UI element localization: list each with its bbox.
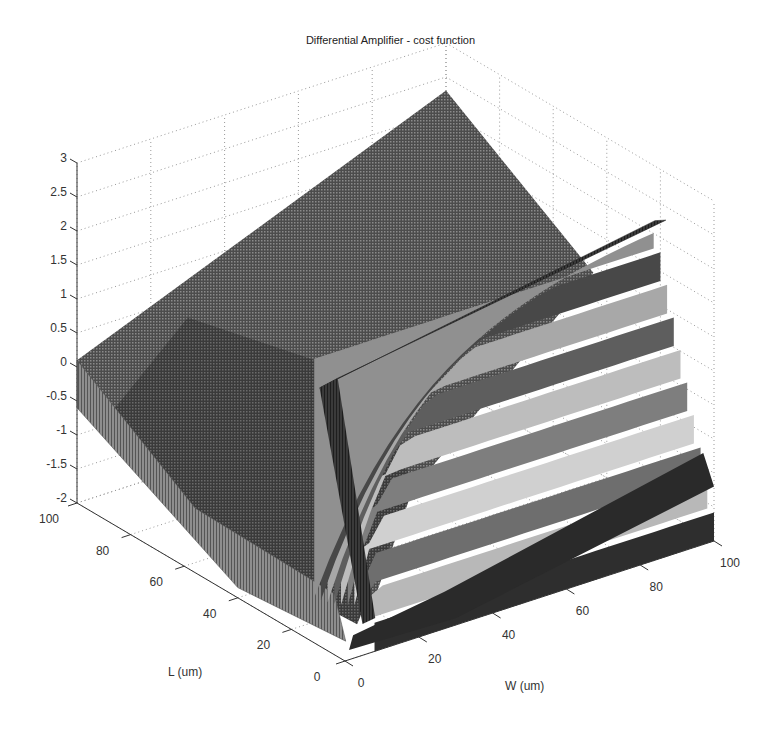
z-tick-label: -0.5 xyxy=(46,389,67,403)
x-tick-label: 80 xyxy=(650,580,664,594)
y-tick-label: 40 xyxy=(203,607,217,621)
z-tick-label: 0.5 xyxy=(50,321,67,335)
surface-mesh xyxy=(77,91,714,652)
y-tick-label: 80 xyxy=(96,544,110,558)
chart-title: Differential Amplifier - cost function xyxy=(0,34,781,46)
y-tick-label: 100 xyxy=(39,512,59,526)
z-tick-label: 2.5 xyxy=(50,185,67,199)
x-axis-label: W (um) xyxy=(505,679,544,693)
z-tick-label: 1 xyxy=(60,287,67,301)
x-tick-label: 0 xyxy=(358,676,365,690)
figure: Differential Amplifier - cost function - xyxy=(0,0,781,730)
z-tick-label: 1.5 xyxy=(50,253,67,267)
y-axis-label: L (um) xyxy=(168,665,202,679)
y-tick-label: 20 xyxy=(257,638,271,652)
z-tick-label: 2 xyxy=(60,219,67,233)
x-tick-label: 60 xyxy=(576,604,590,618)
x-tick-label: 40 xyxy=(502,628,516,642)
z-tick-label: -2 xyxy=(56,491,67,505)
z-tick-label: 0 xyxy=(60,355,67,369)
z-tick-label: -1.5 xyxy=(46,457,67,471)
x-tick-label: 100 xyxy=(720,556,740,570)
y-tick-label: 60 xyxy=(150,575,164,589)
z-tick-label: 3 xyxy=(60,151,67,165)
plot-area: -2-1.5-1-0.500.511.522.53020406080100020… xyxy=(0,0,781,730)
y-tick-label: 0 xyxy=(314,670,321,684)
x-tick-label: 20 xyxy=(428,652,442,666)
z-tick-label: -1 xyxy=(56,423,67,437)
